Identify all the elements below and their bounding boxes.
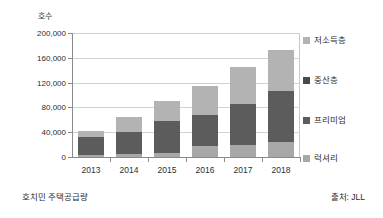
y-axis-title: 호수 (38, 10, 52, 21)
bar-segment[interactable] (78, 131, 104, 137)
legend-swatch-icon (303, 37, 310, 44)
chart-source: 출처: JLL (331, 190, 365, 202)
bar-segment[interactable] (116, 132, 142, 154)
x-axis-tick-mark (148, 158, 149, 162)
y-axis-tick-label: 120,000 (37, 78, 66, 87)
bar-group[interactable] (116, 33, 142, 157)
bar-segment[interactable] (116, 117, 142, 132)
chart-caption: 호치민 주택공급량 (22, 190, 88, 202)
legend-item[interactable]: 럭셔리 (303, 154, 338, 163)
bar-group[interactable] (230, 33, 256, 157)
bar-segment[interactable] (230, 145, 256, 157)
bar-segment[interactable] (230, 67, 256, 104)
legend-swatch-icon (303, 77, 310, 84)
bar-group[interactable] (78, 33, 104, 157)
bar-segment[interactable] (268, 142, 294, 157)
legend-item[interactable]: 프리미엄 (303, 116, 346, 125)
legend-label: 럭셔리 (314, 154, 338, 163)
x-axis-tick-label: 2018 (272, 165, 291, 175)
x-axis-tick-label: 2016 (196, 165, 215, 175)
x-axis-tick-mark (186, 158, 187, 162)
bar-segment[interactable] (78, 137, 104, 156)
y-axis-tick-label: 80,000 (42, 103, 66, 112)
bar-series-container (72, 33, 300, 157)
x-axis-tick-mark (224, 158, 225, 162)
bar-group[interactable] (154, 33, 180, 157)
legend-item[interactable]: 중산층 (303, 76, 338, 85)
bar-segment[interactable] (116, 154, 142, 157)
legend-swatch-icon (303, 117, 310, 124)
bar-group[interactable] (192, 33, 218, 157)
x-axis-tick-label: 2014 (120, 165, 139, 175)
bar-segment[interactable] (230, 104, 256, 144)
bar-segment[interactable] (78, 155, 104, 157)
bar-segment[interactable] (192, 146, 218, 157)
bar-segment[interactable] (154, 101, 180, 121)
y-axis-tick-labels: 040,00080,000120,000160,000200,000 (0, 33, 66, 157)
y-axis-tick-label: 160,000 (37, 53, 66, 62)
y-axis-tick-label: 40,000 (42, 128, 66, 137)
legend-item[interactable]: 저소득층 (303, 36, 346, 45)
x-axis-tick-labels: 201320142015201620172018 (72, 158, 300, 180)
legend-label: 중산층 (314, 76, 338, 85)
bar-segment[interactable] (154, 121, 180, 153)
legend-label: 저소득층 (314, 36, 346, 45)
bar-segment[interactable] (154, 153, 180, 157)
y-axis-tick-label: 0 (62, 153, 66, 162)
chart-figure: 호수 040,00080,000120,000160,000200,000 20… (0, 0, 383, 218)
bar-segment[interactable] (192, 115, 218, 147)
x-axis-tick-mark (110, 158, 111, 162)
bar-segment[interactable] (268, 50, 294, 90)
x-axis-tick-label: 2015 (158, 165, 177, 175)
x-axis-tick-mark (300, 158, 301, 162)
bar-segment[interactable] (192, 86, 218, 115)
x-axis-tick-label: 2017 (234, 165, 253, 175)
bar-group[interactable] (268, 33, 294, 157)
x-axis-tick-label: 2013 (82, 165, 101, 175)
legend-swatch-icon (303, 155, 310, 162)
chart-legend: 저소득층중산층프리미엄럭셔리 (303, 36, 383, 160)
y-axis-tick-label: 200,000 (37, 29, 66, 38)
legend-label: 프리미엄 (314, 116, 346, 125)
bar-segment[interactable] (268, 91, 294, 142)
x-axis-tick-mark (262, 158, 263, 162)
